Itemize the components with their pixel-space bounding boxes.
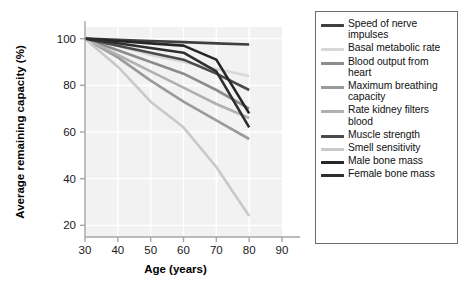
- legend-line-swatch-icon: [321, 110, 344, 113]
- plot-area: 3040506070809020406080100 Age (years)Ave…: [0, 0, 312, 294]
- x-tick-label: 60: [177, 244, 190, 256]
- legend-swatch-cell: [321, 80, 347, 89]
- legend-item-label: Blood output from heart: [347, 56, 453, 78]
- legend-line-swatch-icon: [321, 62, 344, 65]
- x-axis-title: Age (years): [144, 263, 207, 275]
- legend-swatch-cell: [321, 18, 347, 27]
- line-chart: 3040506070809020406080100 Age (years)Ave…: [0, 0, 312, 294]
- legend-item-label: Female bone mass: [347, 168, 453, 179]
- legend-item-label: Basal metabolic rate: [347, 42, 453, 53]
- legend-item[interactable]: Smell sensitivity: [321, 142, 453, 153]
- legend-swatch-cell: [321, 129, 347, 138]
- legend-line-swatch-icon: [321, 135, 344, 138]
- legend-item[interactable]: Basal metabolic rate: [321, 42, 453, 53]
- legend-item[interactable]: Rate kidney filters blood: [321, 104, 453, 126]
- x-tick-label: 40: [111, 244, 124, 256]
- legend-swatch-cell: [321, 42, 347, 51]
- legend-line-swatch-icon: [321, 174, 344, 177]
- legend-item-label: Smell sensitivity: [347, 142, 453, 153]
- x-tick-label: 80: [243, 244, 256, 256]
- x-tick-label: 50: [144, 244, 157, 256]
- legend-line-swatch-icon: [321, 161, 344, 164]
- legend-swatch-cell: [321, 56, 347, 65]
- legend-swatch-cell: [321, 168, 347, 177]
- legend-item[interactable]: Male bone mass: [321, 155, 453, 166]
- legend-line-swatch-icon: [321, 148, 344, 151]
- x-tick-label: 30: [79, 244, 92, 256]
- legend-item[interactable]: Speed of nerve impulses: [321, 18, 453, 40]
- legend-line-swatch-icon: [321, 86, 344, 89]
- legend-item-label: Muscle strength: [347, 129, 453, 140]
- chart-legend: Speed of nerve impulsesBasal metabolic r…: [315, 11, 458, 244]
- legend-item-label: Rate kidney filters blood: [347, 104, 453, 126]
- legend-swatch-cell: [321, 104, 347, 113]
- y-axis-title: Average remaining capacity (%): [14, 45, 26, 219]
- y-tick-label: 100: [57, 33, 76, 45]
- legend-line-swatch-icon: [321, 48, 344, 51]
- legend-item[interactable]: Muscle strength: [321, 129, 453, 140]
- legend-item-label: Maximum breathing capacity: [347, 80, 453, 102]
- y-tick-label: 40: [63, 173, 76, 185]
- legend-item[interactable]: Female bone mass: [321, 168, 453, 179]
- legend-swatch-cell: [321, 142, 347, 151]
- x-tick-label: 70: [210, 244, 223, 256]
- legend-item[interactable]: Maximum breathing capacity: [321, 80, 453, 102]
- figure-root: 3040506070809020406080100 Age (years)Ave…: [0, 0, 468, 294]
- legend-swatch-cell: [321, 155, 347, 164]
- legend-line-swatch-icon: [321, 24, 344, 27]
- y-tick-label: 20: [63, 219, 76, 231]
- legend-item-label: Male bone mass: [347, 155, 453, 166]
- legend-item[interactable]: Blood output from heart: [321, 56, 453, 78]
- legend-item-label: Speed of nerve impulses: [347, 18, 453, 40]
- y-tick-label: 60: [63, 126, 76, 138]
- y-tick-label: 80: [63, 79, 76, 91]
- x-tick-label: 90: [276, 244, 289, 256]
